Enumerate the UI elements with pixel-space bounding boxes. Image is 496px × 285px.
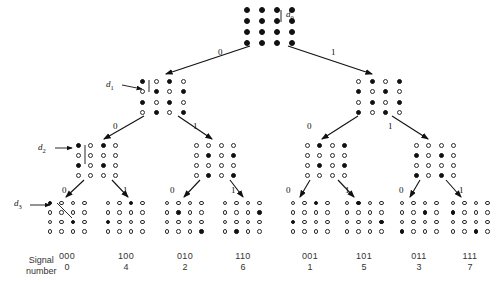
- grid-cell: [184, 208, 196, 218]
- grid-cell: [184, 227, 196, 237]
- hollow-dot: [82, 220, 87, 225]
- node-01: [190, 140, 240, 180]
- grid-cell: [341, 198, 353, 208]
- hollow-dot: [434, 210, 439, 215]
- grid-cell: [137, 217, 149, 227]
- grid-cell: [287, 198, 299, 208]
- grid-cell: [254, 15, 269, 26]
- hollow-dot: [368, 210, 373, 215]
- filled-dot: [342, 163, 347, 168]
- grid-cell: [85, 170, 98, 180]
- grid-cell: [163, 97, 177, 108]
- hollow-dot: [451, 220, 456, 225]
- hollow-dot: [82, 201, 87, 206]
- grid-cell: [435, 140, 448, 150]
- hollow-dot: [246, 229, 251, 234]
- filled-dot: [234, 229, 239, 234]
- grid-cell: [408, 208, 420, 218]
- edge-label-l2-3: 1: [388, 122, 393, 131]
- node-0: [136, 76, 190, 118]
- edge-label-l3-5: 1: [345, 186, 350, 195]
- filled-dot: [274, 7, 280, 13]
- hollow-dot: [451, 229, 456, 234]
- hollow-dot: [423, 201, 428, 206]
- hollow-dot: [451, 143, 456, 148]
- grid-cell: [161, 227, 173, 237]
- filled-dot: [370, 100, 375, 105]
- grid-cell: [393, 97, 407, 108]
- hollow-dot: [414, 163, 419, 168]
- leaf-010: [161, 198, 207, 236]
- filled-dot: [101, 143, 106, 148]
- hollow-dot: [165, 201, 170, 206]
- hollow-dot: [423, 220, 428, 225]
- filled-dot: [259, 18, 265, 24]
- filled-dot: [451, 210, 456, 215]
- hollow-dot: [474, 210, 479, 215]
- grid-cell: [301, 140, 314, 150]
- hollow-dot: [76, 173, 81, 178]
- hollow-dot: [71, 229, 76, 234]
- grid-cell: [269, 15, 284, 26]
- filled-dot: [259, 29, 265, 35]
- hollow-dot: [439, 143, 444, 148]
- root-node: [239, 4, 299, 48]
- grid-cell: [177, 108, 191, 119]
- hollow-dot: [485, 210, 490, 215]
- signal-column-000: 000 0: [41, 251, 93, 273]
- leaf-110: [219, 198, 265, 236]
- grid-cell: [396, 208, 408, 218]
- hollow-dot: [411, 201, 416, 206]
- hollow-dot: [181, 79, 186, 84]
- grid-cell: [287, 227, 299, 237]
- hollow-dot: [379, 210, 384, 215]
- hollow-dot: [257, 201, 262, 206]
- hollow-dot: [342, 173, 347, 178]
- grid-cell: [459, 198, 471, 208]
- filled-dot: [397, 79, 402, 84]
- hollow-dot: [129, 220, 134, 225]
- grid-cell: [136, 76, 150, 87]
- grid-cell: [173, 227, 185, 237]
- grid-cell: [299, 198, 311, 208]
- grid-cell: [287, 208, 299, 218]
- grid-cell: [352, 108, 366, 119]
- grid-cell: [150, 108, 164, 119]
- hollow-dot: [223, 220, 228, 225]
- filled-dot: [259, 7, 265, 13]
- grid-cell: [67, 217, 79, 227]
- grid-cell: [419, 227, 431, 237]
- grid-cell: [161, 217, 173, 227]
- signal-column-100: 100 4: [100, 251, 152, 273]
- filled-dot: [76, 143, 81, 148]
- edge-label-l3-2: 0: [170, 186, 175, 195]
- grid-cell: [228, 160, 241, 170]
- grid-cell: [102, 208, 114, 218]
- hollow-dot: [383, 79, 388, 84]
- grid-cell: [72, 140, 85, 150]
- hollow-dot: [113, 173, 118, 178]
- hollow-dot: [383, 100, 388, 105]
- hollow-dot: [117, 210, 122, 215]
- filled-dot: [289, 7, 295, 13]
- filled-dot: [231, 173, 236, 178]
- hollow-dot: [188, 229, 193, 234]
- grid-cell: [72, 150, 85, 160]
- grid-cell: [423, 170, 436, 180]
- hollow-dot: [325, 201, 330, 206]
- hollow-dot: [48, 229, 53, 234]
- grid-cell: [482, 227, 494, 237]
- grid-cell: [44, 208, 56, 218]
- grid-cell: [102, 217, 114, 227]
- grid-cell: [79, 198, 91, 208]
- grid-cell: [376, 227, 388, 237]
- hollow-dot: [76, 153, 81, 158]
- grid-cell: [219, 217, 231, 227]
- hollow-dot: [117, 229, 122, 234]
- grid-cell: [85, 150, 98, 160]
- hollow-dot: [302, 220, 307, 225]
- node-11: [410, 140, 460, 180]
- hollow-dot: [113, 153, 118, 158]
- grid-cell: [299, 227, 311, 237]
- grid-cell: [254, 198, 266, 208]
